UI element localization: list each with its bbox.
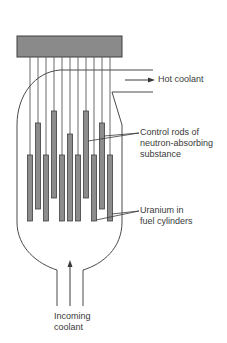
fuel-rod <box>44 155 49 221</box>
control-rod <box>52 111 57 198</box>
control-rod <box>84 111 89 198</box>
fuel-rod <box>28 155 33 221</box>
fuel-rod <box>92 155 97 221</box>
control-rods-leader-lines <box>88 133 139 141</box>
fuel-rod <box>60 155 65 221</box>
uranium-label-line-2: fuel cylinders <box>140 216 193 227</box>
incoming-coolant-arrow-icon <box>68 260 73 306</box>
hot-coolant-label: Hot coolant <box>158 74 204 85</box>
fuel-rod <box>108 155 113 221</box>
fuel-rod <box>76 155 81 221</box>
control-rods-label-line-3: substance <box>140 149 181 160</box>
control-rod <box>36 123 41 209</box>
uranium-label-line-1: Uranium in <box>140 205 184 216</box>
reactor-diagram <box>0 0 227 343</box>
control-rods-label-line-2: neutron-absorbing <box>140 138 213 149</box>
rod-drive-head <box>17 36 122 57</box>
uranium-leader-lines <box>96 211 139 220</box>
control-rods-label-line-1: Control rods of <box>140 127 199 138</box>
control-rod <box>68 134 73 221</box>
incoming-coolant-label-line-1: Incoming <box>54 311 91 322</box>
hot-coolant-arrow-icon <box>125 78 155 83</box>
incoming-coolant-label-line-2: coolant <box>54 322 83 333</box>
control-rod <box>100 123 105 209</box>
